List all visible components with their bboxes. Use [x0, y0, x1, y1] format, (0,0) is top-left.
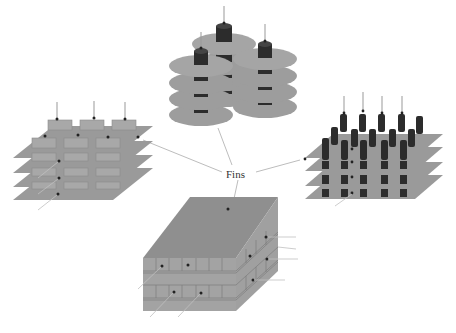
pin-fins-array: [304, 92, 443, 206]
stacked-disc-fins: [169, 6, 297, 126]
block-channel-fins: [138, 197, 298, 317]
leader-lines: [143, 128, 300, 208]
fins-label: Fins: [226, 168, 245, 180]
plate-fins-rect-cells: [13, 101, 153, 210]
fins-diagram: [0, 0, 456, 333]
